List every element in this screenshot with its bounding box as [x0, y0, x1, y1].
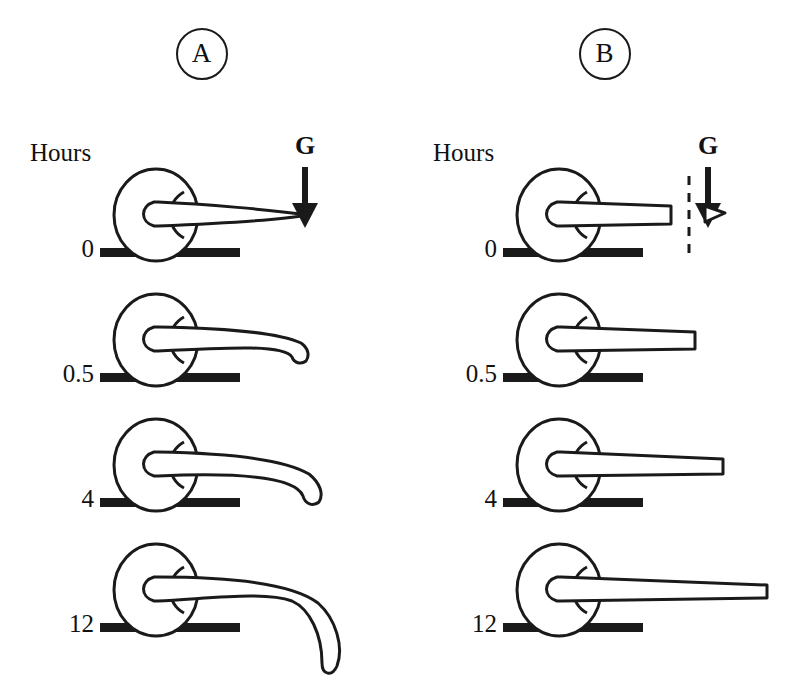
panel-a-gravity-label: G — [290, 131, 320, 161]
panel-b-time-label-2: 4 — [415, 486, 497, 511]
panel-a-time-label-2: 4 — [12, 486, 94, 511]
panel-b-gravity-label: G — [693, 131, 723, 161]
panel-a-time-label-0: 0 — [12, 236, 94, 261]
panel-b-time-label-0: 0 — [415, 236, 497, 261]
panel-b-row-3: 12 — [403, 535, 806, 685]
panel-a-time-label-3: 12 — [12, 611, 94, 636]
panel-a-time-label-1: 0.5 — [12, 361, 94, 386]
panel-b-letter: B — [595, 40, 613, 67]
panel-a-letter: A — [192, 40, 212, 67]
panel-a-letter-badge: A — [176, 28, 228, 80]
panel-a: A Hours G 0 0.5 — [0, 0, 403, 690]
panel-b: B Hours G 0 — [403, 0, 806, 690]
root-gravitropism-figure: A Hours G 0 0.5 — [0, 0, 806, 690]
detached-root-tip — [705, 206, 725, 222]
panel-a-row-3: 12 — [0, 535, 403, 685]
panel-b-time-label-3: 12 — [415, 611, 497, 636]
panel-b-letter-badge: B — [579, 28, 631, 80]
panel-b-time-label-1: 0.5 — [415, 361, 497, 386]
panel-b-seedling-3 — [499, 535, 799, 685]
panel-a-seedling-3 — [96, 535, 396, 685]
